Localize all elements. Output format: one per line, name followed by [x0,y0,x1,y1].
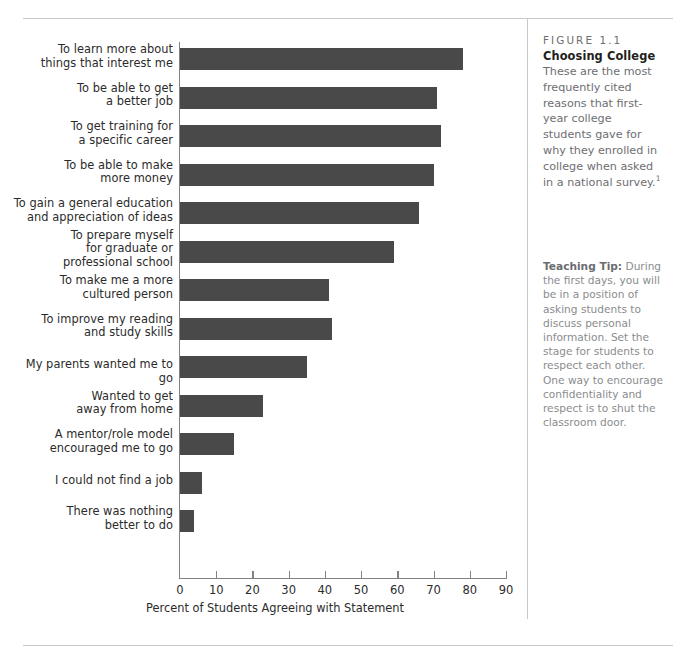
bar [180,279,329,301]
figure-caption-footnote-marker: 1 [656,174,661,183]
bar-category-label-line: and appreciation of ideas [13,211,173,225]
bar-category-label-line: To make me a more [13,274,173,288]
bar-category-label: There was nothingbetter to do [13,505,173,532]
bar-chart: To learn more aboutthings that interest … [0,0,527,653]
bar-category-label-line: There was nothing [13,505,173,519]
bar-category-label-line: To be able to make [13,159,173,173]
figure-page: To learn more aboutthings that interest … [0,0,673,653]
x-axis-tick-label: 20 [232,583,272,597]
bar-row: To be able to makemore money [0,160,520,199]
bar-category-label: To make me a morecultured person [13,274,173,301]
figure-title: Choosing College [543,49,663,63]
figure-number-label: FIGURE 1.1 [543,34,663,46]
bar-category-label-line: a better job [13,95,173,109]
bar-row: There was nothingbetter to do [0,506,520,545]
x-axis-tick [506,571,507,579]
bar-category-label: To improve my readingand study skills [13,313,173,340]
bar-row: To improve my readingand study skills [0,314,520,353]
bar-row: To be able to geta better job [0,83,520,122]
teaching-tip-text: During the first days, you will be in a … [543,260,663,428]
bar-row: My parents wanted me to go [0,352,520,391]
bar-category-label-line: To prepare myself [13,229,173,243]
bar-category-label-line: more money [13,172,173,186]
figure-caption-body: These are the most frequently cited reas… [543,65,657,189]
x-axis-tick [397,571,398,579]
bar [180,318,332,340]
bar-category-label: I could not find a job [13,474,173,488]
bar-category-label-line: professional school [13,256,173,270]
bar-category-label: Wanted to getaway from home [13,390,173,417]
x-axis-tick [252,571,253,579]
bar-category-label-line: To improve my reading [13,313,173,327]
bar-category-label-line: away from home [13,403,173,417]
bar [180,164,434,186]
bar-category-label: To be able to geta better job [13,82,173,109]
figure-caption-block: FIGURE 1.1 Choosing College These are th… [543,34,663,190]
x-axis-title: Percent of Students Agreeing with Statem… [0,601,520,615]
bar-category-label-line: things that interest me [13,57,173,71]
bar-category-label: A mentor/role modelencouraged me to go [13,428,173,455]
bar-category-label-line: better to do [13,519,173,533]
bar-category-label-line: To get training for [13,120,173,134]
bar-row: To prepare myselffor graduate orprofessi… [0,237,520,276]
bar-category-label-line: To learn more about [13,43,173,57]
bar-row: I could not find a job [0,468,520,507]
bar-category-label-line: encouraged me to go [13,442,173,456]
bar-category-label-line: Wanted to get [13,390,173,404]
bar [180,395,263,417]
x-axis-tick-label: 60 [377,583,417,597]
bar [180,125,441,147]
bar-category-label: To learn more aboutthings that interest … [13,43,173,70]
bar-rows-container: To learn more aboutthings that interest … [0,44,520,545]
x-axis-tick [434,571,435,579]
sidebar-divider-rule [527,19,528,619]
bar [180,433,234,455]
x-axis-tick [470,571,471,579]
bar-category-label-line: cultured person [13,288,173,302]
bar [180,510,194,532]
teaching-tip-block: Teaching Tip: During the first days, you… [543,259,665,429]
bar-category-label-line: a specific career [13,134,173,148]
bar-category-label-line: A mentor/role model [13,428,173,442]
bar-category-label-line: I could not find a job [13,474,173,488]
bar-category-label: To be able to makemore money [13,159,173,186]
bar-category-label-line: To be able to get [13,82,173,96]
x-axis-tick [361,571,362,579]
x-axis-tick [289,571,290,579]
bar-row: To get training fora specific career [0,121,520,160]
bar-row: To learn more aboutthings that interest … [0,44,520,83]
x-axis-tick-label: 70 [414,583,454,597]
bar [180,472,202,494]
bar-category-label-line: for graduate or [13,242,173,256]
x-axis-tick-label: 90 [486,583,526,597]
x-axis-tick-label: 30 [269,583,309,597]
x-axis-tick-label: 0 [160,583,200,597]
x-axis-line [179,578,506,579]
bar [180,48,463,70]
x-axis-tick [216,571,217,579]
bar [180,241,394,263]
bar [180,87,437,109]
bar-category-label: To prepare myselffor graduate orprofessi… [13,229,173,270]
bar-category-label: To get training fora specific career [13,120,173,147]
x-axis-tick [325,571,326,579]
figure-caption-text: These are the most frequently cited reas… [543,64,663,190]
bar-category-label-line: To gain a general education [13,197,173,211]
x-axis-tick-label: 40 [305,583,345,597]
bar-category-label-line: and study skills [13,326,173,340]
bar-category-label: To gain a general educationand appreciat… [13,197,173,224]
x-axis-tick-label: 50 [341,583,381,597]
bar [180,202,419,224]
bar-category-label-line: My parents wanted me to go [13,358,173,385]
x-axis-tick-label: 80 [450,583,490,597]
bar [180,356,307,378]
x-axis-tick-label: 10 [196,583,236,597]
bar-row: To make me a morecultured person [0,275,520,314]
bar-row: Wanted to getaway from home [0,391,520,430]
bar-category-label: My parents wanted me to go [13,358,173,385]
y-axis-line [179,42,180,578]
bar-row: A mentor/role modelencouraged me to go [0,429,520,468]
teaching-tip-label: Teaching Tip: [543,260,622,272]
